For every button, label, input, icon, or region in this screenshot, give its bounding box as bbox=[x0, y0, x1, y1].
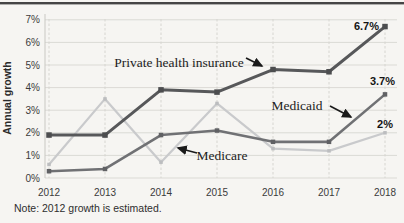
series-marker-medicaid-2013 bbox=[103, 167, 108, 172]
annotation-arrow-medicaid bbox=[330, 106, 351, 117]
x-tick-label-2012: 2012 bbox=[38, 187, 61, 198]
y-axis-title: Annual growth bbox=[1, 61, 13, 135]
annual-growth-line-chart: 0%1%2%3%4%5%6%7%201220132014201520162017… bbox=[0, 0, 404, 223]
series-marker-private-health-insurance-2013 bbox=[102, 132, 108, 138]
annotation-label-medicare: Medicare bbox=[197, 148, 248, 163]
series-marker-medicare-2017 bbox=[327, 149, 331, 153]
series-marker-medicare-2018 bbox=[383, 131, 387, 135]
y-tick-label-5%: 5% bbox=[26, 60, 41, 71]
series-marker-medicaid-2012 bbox=[47, 169, 52, 174]
series-marker-medicare-2012 bbox=[47, 163, 51, 167]
series-marker-medicaid-2018 bbox=[383, 92, 388, 97]
y-tick-label-6%: 6% bbox=[26, 37, 41, 48]
series-marker-private-health-insurance-2016 bbox=[270, 67, 276, 73]
series-marker-private-health-insurance-2018 bbox=[382, 24, 388, 30]
end-label-medicare: 2% bbox=[377, 118, 393, 130]
annotation-label-private-health-insurance: Private health insurance bbox=[114, 55, 244, 70]
y-tick-label-4%: 4% bbox=[26, 82, 41, 93]
y-tick-label-0%: 0% bbox=[26, 173, 41, 184]
series-marker-private-health-insurance-2014 bbox=[158, 87, 164, 93]
series-marker-private-health-insurance-2017 bbox=[326, 69, 332, 75]
x-tick-label-2015: 2015 bbox=[206, 187, 229, 198]
series-marker-medicare-2015 bbox=[215, 102, 219, 106]
end-label-medicaid: 3.7% bbox=[370, 75, 395, 87]
chart-figure: 0%1%2%3%4%5%6%7%201220132014201520162017… bbox=[0, 0, 404, 223]
x-tick-label-2018: 2018 bbox=[374, 187, 397, 198]
x-tick-label-2013: 2013 bbox=[94, 187, 117, 198]
x-tick-label-2016: 2016 bbox=[262, 187, 285, 198]
end-label-private-health-insurance: 6.7% bbox=[354, 20, 379, 32]
annotation-label-medicaid: Medicaid bbox=[272, 98, 323, 113]
series-marker-private-health-insurance-2012 bbox=[46, 132, 52, 138]
top-rule bbox=[0, 2, 404, 4]
series-marker-medicaid-2017 bbox=[327, 140, 332, 145]
series-marker-private-health-insurance-2015 bbox=[214, 89, 220, 95]
chart-note: Note: 2012 growth is estimated. bbox=[14, 202, 162, 214]
x-tick-label-2014: 2014 bbox=[150, 187, 173, 198]
series-marker-medicare-2014 bbox=[159, 160, 163, 164]
y-tick-label-7%: 7% bbox=[26, 14, 41, 25]
y-tick-label-3%: 3% bbox=[26, 105, 41, 116]
series-marker-medicare-2013 bbox=[103, 97, 107, 101]
annotation-layer: 6.7%3.7%2%Private health insuranceMedica… bbox=[114, 20, 395, 163]
y-tick-label-1%: 1% bbox=[26, 150, 41, 161]
series-marker-medicare-2016 bbox=[271, 147, 275, 151]
series-marker-medicaid-2016 bbox=[271, 140, 276, 145]
x-tick-label-2017: 2017 bbox=[318, 187, 341, 198]
annotation-arrow-medicare bbox=[178, 148, 197, 153]
series-marker-medicaid-2014 bbox=[159, 133, 164, 138]
y-tick-label-2%: 2% bbox=[26, 127, 41, 138]
series-marker-medicaid-2015 bbox=[215, 128, 220, 133]
